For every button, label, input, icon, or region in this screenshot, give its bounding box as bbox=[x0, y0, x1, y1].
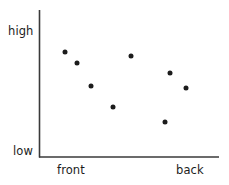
data-point bbox=[168, 71, 173, 76]
data-point bbox=[163, 120, 168, 125]
scatter-plot-figure: high low front back bbox=[0, 0, 229, 185]
data-point bbox=[184, 86, 189, 91]
plot-canvas bbox=[0, 0, 229, 185]
y-axis-high-label: high bbox=[8, 26, 33, 38]
y-axis-low-label: low bbox=[13, 146, 33, 158]
x-axis-front-label: front bbox=[57, 165, 85, 177]
data-point bbox=[129, 54, 134, 59]
data-point bbox=[111, 105, 116, 110]
data-point bbox=[63, 50, 68, 55]
data-point bbox=[75, 61, 80, 66]
axes-group bbox=[39, 10, 219, 158]
data-point bbox=[89, 84, 94, 89]
data-point-group bbox=[63, 50, 189, 125]
x-axis-back-label: back bbox=[176, 165, 204, 177]
